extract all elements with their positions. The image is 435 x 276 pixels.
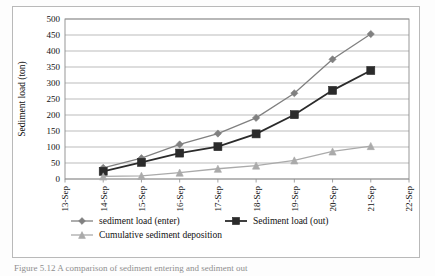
legend-label: Cumulative sediment deposition: [99, 230, 222, 240]
x-tick-label: 13-Sep: [60, 186, 70, 212]
x-tick-label: 18-Sep: [252, 186, 262, 212]
y-axis-title: Sediment load (ton): [17, 61, 28, 136]
y-tick-label: 450: [47, 30, 61, 40]
x-tick-label: 22-Sep: [404, 186, 414, 212]
marker-diamond: [253, 114, 260, 121]
legend-item-1[interactable]: sediment load (enter): [71, 216, 180, 227]
legend-item-3[interactable]: Cumulative sediment deposition: [71, 230, 222, 240]
y-axis-label-text: Sediment load (ton): [17, 61, 28, 136]
y-tick-label: 250: [47, 94, 61, 104]
marker-square: [214, 143, 222, 151]
x-tick-label: 20-Sep: [328, 186, 338, 212]
marker-square: [252, 130, 260, 138]
marker-square: [176, 149, 184, 157]
figure-container: 050100150200250300350400450500 13-Sep14-…: [0, 0, 435, 276]
marker-square: [367, 67, 375, 75]
x-tick-label: 17-Sep: [213, 186, 223, 212]
legend-label: Sediment load (out): [253, 216, 328, 227]
y-tick-label: 500: [47, 14, 61, 24]
chart-frame: 050100150200250300350400450500 13-Sep14-…: [12, 6, 420, 258]
x-tick-label: 19-Sep: [290, 186, 300, 212]
marker-square: [329, 86, 337, 94]
legend-label: sediment load (enter): [99, 216, 180, 227]
y-tick-label: 100: [47, 142, 61, 152]
y-tick-label: 350: [47, 62, 61, 72]
figure-caption: Figure 5.12 A comparison of sediment ent…: [14, 261, 424, 275]
x-tick-label: 14-Sep: [99, 186, 109, 212]
x-tick-label: 16-Sep: [175, 186, 185, 212]
marker-diamond: [367, 30, 374, 37]
y-axis-tick-labels: 050100150200250300350400450500: [47, 14, 61, 184]
chart-legend: sediment load (enter)Sediment load (out)…: [71, 216, 328, 240]
series-line: [103, 34, 371, 168]
y-tick-label: 150: [47, 126, 61, 136]
sediment-load-line-chart: 050100150200250300350400450500 13-Sep14-…: [13, 7, 419, 257]
marker-square: [232, 217, 239, 224]
y-tick-label: 200: [47, 110, 61, 120]
x-axis-tick-labels: 13-Sep14-Sep15-Sep16-Sep17-Sep18-Sep19-S…: [60, 179, 414, 212]
legend-item-2[interactable]: Sediment load (out): [225, 216, 328, 227]
y-tick-label: 50: [51, 158, 61, 168]
x-tick-label: 21-Sep: [366, 186, 376, 212]
y-tick-label: 0: [56, 174, 61, 184]
y-tick-label: 300: [47, 78, 61, 88]
x-tick-label: 15-Sep: [137, 186, 147, 212]
marker-diamond: [79, 218, 86, 225]
marker-square: [290, 111, 298, 119]
data-series-layer: [99, 30, 375, 180]
y-tick-label: 400: [47, 46, 61, 56]
marker-square: [137, 158, 145, 166]
